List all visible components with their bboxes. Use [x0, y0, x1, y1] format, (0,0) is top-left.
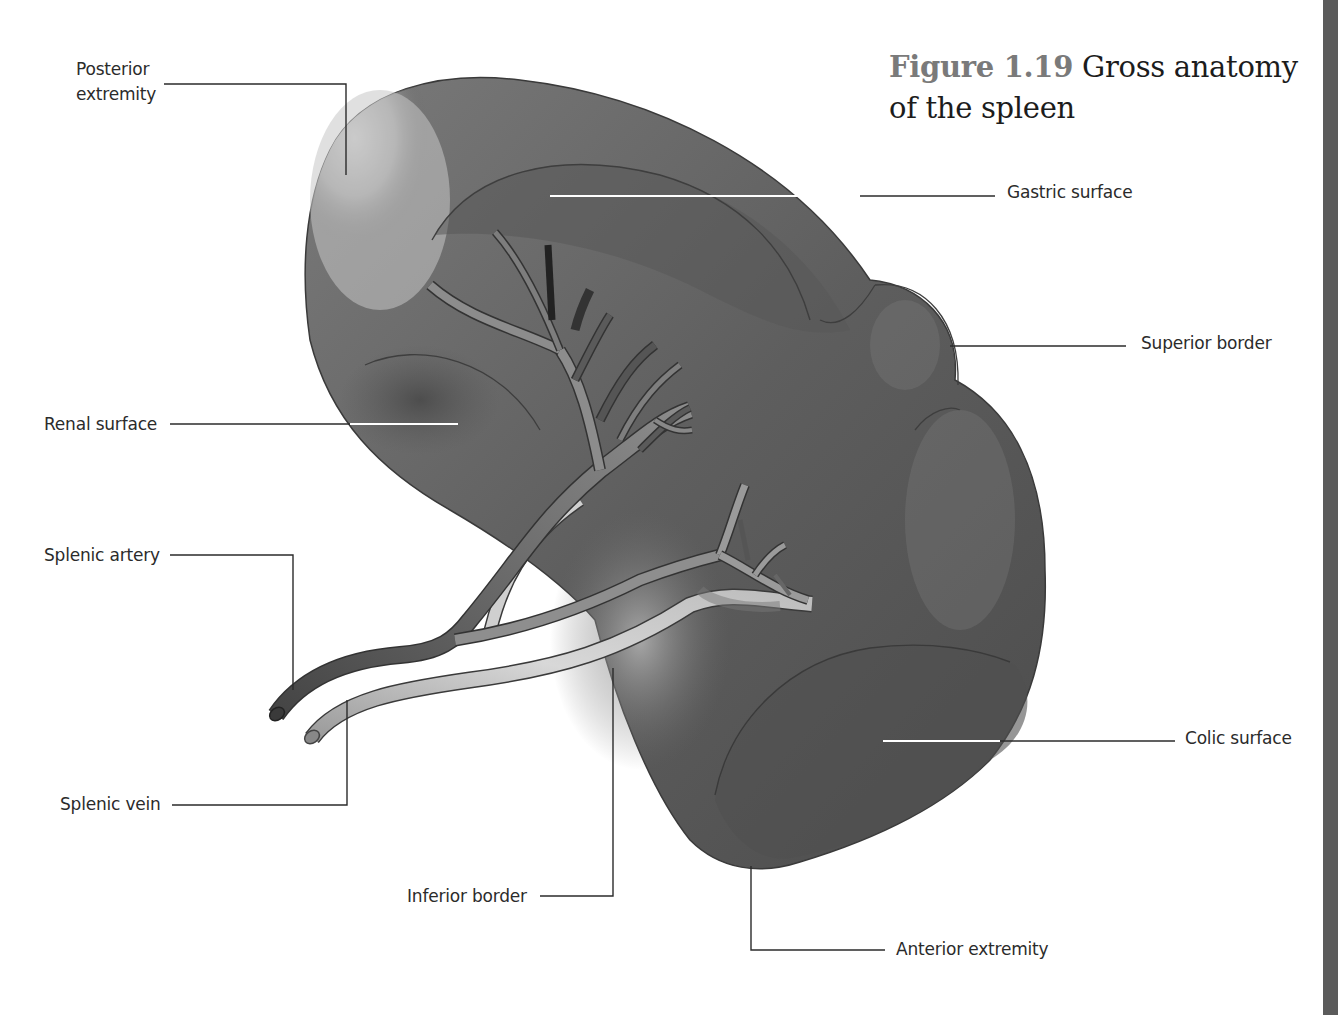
- label-colic-surface: Colic surface: [1185, 726, 1292, 751]
- label-posterior-extremity-line1: Posterior: [76, 59, 149, 79]
- anterior-extremity-leader: [751, 866, 885, 950]
- spleen-illustration: [0, 0, 1338, 1015]
- page-edge-bar: [1323, 0, 1338, 1015]
- splenic-artery-leader: [170, 555, 293, 690]
- renal-surface-region: [340, 345, 500, 455]
- label-superior-border: Superior border: [1141, 331, 1271, 356]
- label-splenic-vein: Splenic vein: [60, 792, 161, 817]
- figure-canvas: Figure 1.19 Gross anatomy of the spleen …: [0, 0, 1338, 1015]
- figure-number: Figure 1.19: [889, 50, 1073, 84]
- label-posterior-extremity: Posterior extremity: [76, 57, 156, 107]
- label-inferior-border: Inferior border: [407, 884, 527, 909]
- label-posterior-extremity-line2: extremity: [76, 84, 156, 104]
- splenic-vein-leader: [172, 700, 347, 805]
- figure-title-line2: of the spleen: [889, 91, 1075, 125]
- label-anterior-extremity: Anterior extremity: [896, 937, 1048, 962]
- label-splenic-artery: Splenic artery: [44, 543, 160, 568]
- figure-title-line1: Gross anatomy: [1082, 50, 1298, 84]
- figure-title: Figure 1.19 Gross anatomy of the spleen: [889, 47, 1309, 129]
- label-gastric-surface: Gastric surface: [1007, 180, 1132, 205]
- label-renal-surface: Renal surface: [44, 412, 157, 437]
